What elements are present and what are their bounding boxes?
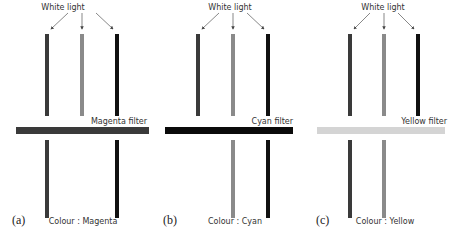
panel-label: (a) bbox=[12, 213, 25, 227]
transmitted-beam-blue bbox=[115, 140, 119, 218]
incoming-beam-green bbox=[382, 34, 386, 116]
incoming-beam-red bbox=[196, 34, 200, 116]
filter-bar bbox=[165, 127, 293, 134]
arrow-icon bbox=[354, 13, 370, 29]
subtractive-filter-diagram: White light Magenta filter (a) Colour : … bbox=[0, 0, 468, 249]
filter-label: Cyan filter bbox=[252, 117, 294, 126]
white-light-label: White light bbox=[41, 3, 85, 12]
filter-label: Magenta filter bbox=[91, 117, 148, 126]
transmitted-beam-red bbox=[45, 140, 49, 218]
filter-bar bbox=[16, 127, 149, 134]
panel-b: White light Cyan filter (b) Colour : Cya… bbox=[163, 3, 294, 227]
panel-c: White light Yellow filter (c) Colour : Y… bbox=[316, 3, 448, 227]
arrow-icon bbox=[96, 13, 113, 29]
result-colour-label: Colour : Cyan bbox=[208, 217, 262, 226]
panel-a: White light Magenta filter (a) Colour : … bbox=[12, 3, 149, 227]
filter-label: Yellow filter bbox=[400, 117, 447, 126]
filter-bar bbox=[317, 127, 445, 134]
arrow-icon bbox=[398, 13, 414, 29]
white-light-label: White light bbox=[208, 3, 252, 12]
panel-label: (b) bbox=[163, 213, 177, 227]
incoming-beam-blue bbox=[416, 34, 420, 116]
transmitted-beam-green bbox=[231, 140, 235, 218]
arrow-icon bbox=[202, 13, 219, 29]
incoming-beam-red bbox=[45, 34, 49, 116]
arrow-icon bbox=[51, 13, 68, 29]
panel-label: (c) bbox=[316, 213, 329, 227]
arrow-icon bbox=[247, 13, 264, 29]
transmitted-beam-green bbox=[382, 140, 386, 218]
incoming-beam-blue bbox=[115, 34, 119, 116]
result-colour-label: Colour : Magenta bbox=[49, 217, 118, 226]
incoming-beam-red bbox=[348, 34, 352, 116]
transmitted-beam-red bbox=[348, 140, 352, 218]
result-colour-label: Colour : Yellow bbox=[356, 217, 415, 226]
transmitted-beam-blue bbox=[266, 140, 270, 218]
incoming-beam-green bbox=[80, 34, 84, 116]
white-light-label: White light bbox=[361, 3, 405, 12]
incoming-beam-green bbox=[231, 34, 235, 116]
incoming-beam-blue bbox=[266, 34, 270, 116]
